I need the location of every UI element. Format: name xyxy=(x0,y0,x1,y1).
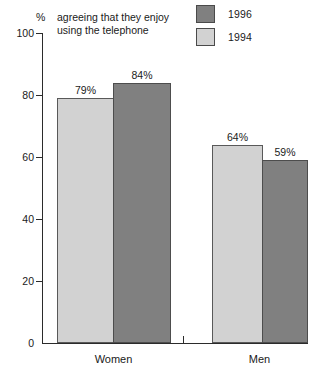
x-axis-line xyxy=(42,343,308,344)
bar-value-women-1994: 79% xyxy=(57,84,114,96)
x-category-label-men: Men xyxy=(212,353,307,365)
x-category-label-women: Women xyxy=(57,353,170,365)
y-tick-40 xyxy=(36,219,42,220)
bar-women-1996 xyxy=(113,83,171,343)
bar-value-men-1994: 64% xyxy=(212,131,263,143)
y-tick-label-60: 60 xyxy=(22,152,34,162)
y-tick-100 xyxy=(36,33,42,34)
y-tick-20 xyxy=(36,281,42,282)
y-axis-line xyxy=(42,33,43,344)
bar-men-1996 xyxy=(262,160,308,343)
y-tick-80 xyxy=(36,95,42,96)
y-tick-label-20: 20 xyxy=(22,276,34,286)
bar-chart: 1996 1994 % agreeing that they enjoy usi… xyxy=(0,0,335,374)
y-tick-label-40: 40 xyxy=(22,214,34,224)
bar-value-men-1996: 59% xyxy=(262,146,308,158)
bar-women-1994 xyxy=(57,98,114,343)
bar-value-women-1996: 84% xyxy=(113,69,171,81)
y-tick-label-0: 0 xyxy=(28,338,34,348)
x-tick-group-separator xyxy=(183,336,184,343)
plot-area: 100 80 60 40 20 0 79% 84% 64% 59% Women … xyxy=(0,0,335,374)
y-tick-60 xyxy=(36,157,42,158)
y-tick-label-100: 100 xyxy=(16,28,34,38)
bar-men-1994 xyxy=(212,145,263,343)
y-tick-label-80: 80 xyxy=(22,90,34,100)
